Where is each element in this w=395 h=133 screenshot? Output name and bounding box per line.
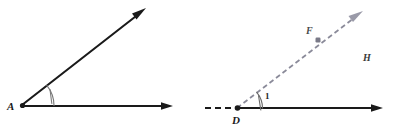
vertex-label-a: A [6,100,14,112]
ray-d-horizontal [237,104,383,112]
figure-canvas: A [0,0,395,133]
geometry-figure: A [0,0,395,133]
point-marker-f [316,38,321,43]
vertex-dot-a [20,103,25,108]
ray-d-upper-dashed [237,11,363,108]
ray-a-horizontal [22,102,173,110]
ray-a-upper [22,8,146,105]
angle-d-diagram: 1 D F H [205,11,383,126]
point-label-f: F [305,25,313,36]
vertex-dot-d [235,105,241,111]
arrowhead-d-horizontal [371,104,383,112]
angle-a-diagram: A [6,8,173,112]
angle-arc-a [47,85,54,105]
vertex-label-d: D [231,114,240,126]
arrowhead-a-horizontal [161,102,173,110]
angle-label-1: 1 [265,91,270,101]
region-label-h: H [362,52,372,63]
